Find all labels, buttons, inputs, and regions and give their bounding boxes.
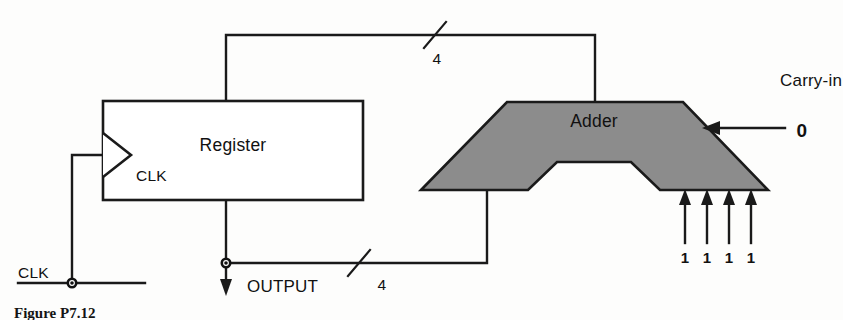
- adder-label: Adder: [570, 111, 618, 131]
- output-bus-width-label: 4: [378, 276, 387, 293]
- adder-input-bit-2: 1: [725, 249, 734, 266]
- output-bus-wire: [226, 191, 487, 263]
- clk-feed-wire: [72, 155, 103, 283]
- carry-in-label: Carry-in: [780, 71, 842, 90]
- register-label: Register: [200, 135, 267, 155]
- adder-input-bit-3: 1: [747, 249, 756, 266]
- adder-data-input-arrows: [679, 189, 757, 243]
- figure-caption: Figure P7.12: [14, 305, 95, 320]
- feedback-bus-wire: [226, 35, 595, 102]
- register-clk-label: CLK: [136, 167, 167, 184]
- down-arrow-icon: [220, 279, 232, 296]
- circuit-schematic: Register CLK Adder CLK OUTPUT 4 4 Carry-…: [0, 0, 843, 320]
- figure-diagram: Register CLK Adder CLK OUTPUT 4 4 Carry-…: [0, 0, 843, 320]
- junction-dot-core-output: [224, 261, 228, 265]
- feedback-bus-width-label: 4: [433, 50, 442, 67]
- adder-input-bit-0: 1: [681, 249, 690, 266]
- output-label: OUTPUT: [247, 277, 318, 296]
- junction-dot-core-clk: [70, 281, 74, 285]
- adder-input-bit-1: 1: [703, 249, 712, 266]
- carry-in-value: 0: [797, 120, 808, 141]
- clk-input-label: CLK: [18, 264, 49, 281]
